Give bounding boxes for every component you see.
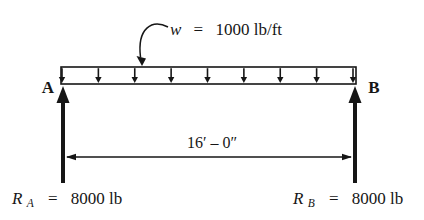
reaction-b-equals: = — [329, 189, 339, 208]
reaction-b-label: R B = 8000 lb — [292, 189, 403, 211]
beam-diagram: w = 1000 lb/ft A B 16′ – 0″ R A = 8000 l… — [0, 0, 424, 220]
dimension-line — [66, 154, 352, 160]
reaction-arrow-a — [57, 86, 70, 183]
reaction-a-subscript: A — [26, 197, 35, 209]
load-symbol: w — [170, 20, 182, 39]
reaction-a-symbol: R — [11, 189, 23, 208]
reaction-a-value: 8000 lb — [71, 189, 122, 208]
node-label-b: B — [368, 78, 379, 97]
reaction-a-label: R A = 8000 lb — [11, 189, 122, 211]
reaction-arrow-b — [349, 86, 362, 183]
reaction-b-symbol: R — [292, 189, 304, 208]
diagram-canvas: w = 1000 lb/ft A B 16′ – 0″ R A = 8000 l… — [0, 0, 424, 220]
reaction-b-subscript: B — [308, 197, 315, 209]
reaction-a-equals: = — [48, 189, 58, 208]
beam — [61, 67, 356, 84]
load-equals: = — [194, 20, 204, 39]
load-value: 1000 lb/ft — [215, 20, 282, 39]
leader-curve — [140, 24, 168, 57]
dimension-arrowhead-left-icon — [66, 154, 76, 160]
leader-arrowhead-icon — [137, 56, 147, 66]
reaction-b-value: 8000 lb — [352, 189, 403, 208]
load-leader-arrow — [137, 24, 169, 66]
dimension-arrowhead-right-icon — [342, 154, 352, 160]
node-label-a: A — [42, 78, 55, 97]
span-dimension-label: 16′ – 0″ — [187, 134, 237, 151]
load-label: w = 1000 lb/ft — [170, 20, 282, 39]
